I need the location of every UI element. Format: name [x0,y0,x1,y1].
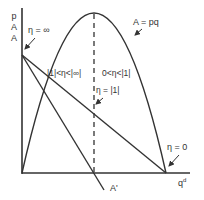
x-axis-label-sup: d [183,177,186,183]
eta-unit-label: η = |1| [96,85,120,95]
diagram: p A A qd A = pq η = ∞ |1|<η<|∞| 0<η<|1| … [0,0,204,200]
eta-zero-arrow-icon [169,155,179,166]
eta-infinity-label: η = ∞ [28,25,50,35]
x-axis-label: qd [178,177,186,188]
revenue-curve-label: A = pq [133,17,159,27]
y-axis-label-p: p [11,11,16,21]
eta-inelastic-range-label: 0<η<|1| [102,68,131,78]
y-axis-label-a1: A [11,22,17,32]
eta-unit-arrow-icon [96,98,103,104]
eta-infinity-arrow-icon [25,38,35,49]
eta-elastic-range-label: |1|<η<|∞| [47,68,81,78]
marginal-line-label: A' [110,183,118,193]
revenue-curve-arrow-icon [135,29,142,35]
eta-zero-label: η = 0 [167,142,187,152]
y-axis-label-a2: A [11,33,17,43]
